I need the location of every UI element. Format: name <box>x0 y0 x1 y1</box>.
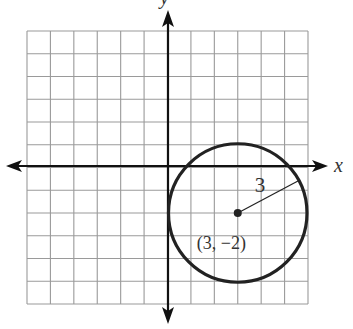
coordinate-plane-figure: x y 3 (3, −2) <box>0 0 353 329</box>
center-point <box>234 209 242 217</box>
x-axis-label: x <box>333 154 343 176</box>
axes: x y <box>6 0 343 324</box>
radius-segment <box>238 180 299 213</box>
radius-label: 3 <box>255 173 266 197</box>
center-label: (3, −2) <box>197 233 246 254</box>
plot-canvas: x y 3 (3, −2) <box>0 0 353 329</box>
y-axis-label: y <box>158 0 169 9</box>
